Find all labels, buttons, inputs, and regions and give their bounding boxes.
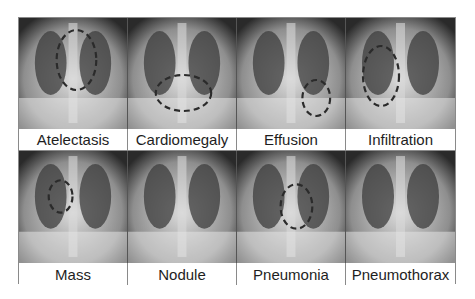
xray-grid: AtelectasisCardiomegalyEffusionInfiltrat… [18,17,456,284]
label-effusion: Effusion [237,129,346,151]
xray-image-cardiomegaly [128,18,237,129]
label-pneumothorax: Pneumothorax [346,263,455,285]
label-infiltration: Infiltration [346,129,455,151]
xray-image-pneumonia [237,151,346,263]
label-atelectasis: Atelectasis [19,129,128,151]
label-cardiomegaly: Cardiomegaly [128,129,237,151]
xray-image-infiltration [346,18,455,129]
label-mass: Mass [19,263,128,285]
xray-image-nodule [128,151,237,263]
xray-image-atelectasis [19,18,128,129]
label-pneumonia: Pneumonia [237,263,346,285]
xray-image-mass [19,151,128,263]
xray-image-effusion [237,18,346,129]
label-nodule: Nodule [128,263,237,285]
xray-image-pneumothorax [346,151,455,263]
